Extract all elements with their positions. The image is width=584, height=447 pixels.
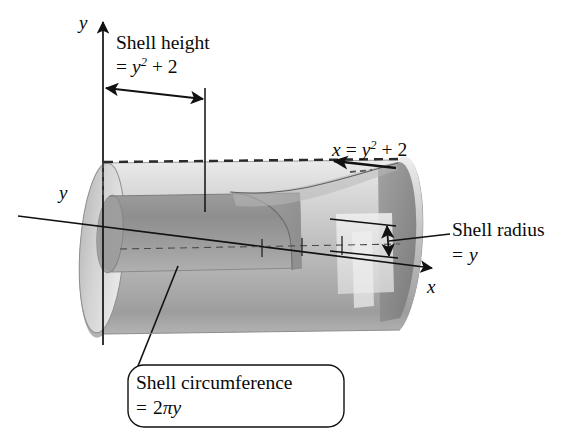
- shell-radius-annotation: Shell radius =y: [452, 218, 545, 266]
- shell-radius-variable: y: [469, 244, 478, 265]
- shell-circumference-annotation: Shell circumference =2πy: [136, 371, 292, 419]
- curve-equation-suffix: + 2: [382, 139, 408, 160]
- curve-equation-equals: =: [346, 139, 357, 160]
- shell-method-figure: y y x Shell height =y2+ 2 x=y2+ 2 Shell …: [0, 0, 584, 447]
- shell-circumference-variable: y: [173, 397, 182, 418]
- shell-circumference-coefficient: 2: [153, 397, 163, 418]
- cylinder-right-highlight-2: [352, 231, 374, 308]
- curve-equation-variable: y: [362, 139, 371, 160]
- shell-height-dimension-arrow: [106, 88, 203, 99]
- curve-equation-lhs: x: [332, 139, 341, 160]
- x-axis-label: x: [427, 276, 435, 298]
- shell-radius-line2: =y: [452, 243, 545, 266]
- shell-radius-equals: =: [452, 244, 463, 265]
- shell-height-line1: Shell height: [116, 31, 210, 54]
- y-axis-label-top: y: [79, 12, 87, 34]
- curve-equation-annotation: x=y2+ 2: [332, 138, 407, 161]
- shell-circumference-equals: =: [136, 397, 147, 418]
- pi-symbol: π: [163, 397, 173, 418]
- shell-height-line2: =y2+ 2: [116, 55, 210, 78]
- shell-height-suffix: + 2: [152, 56, 178, 77]
- shell-circumference-line2: =2πy: [136, 396, 292, 419]
- shell-height-equals: =: [116, 56, 127, 77]
- shell-height-variable: y: [132, 56, 141, 77]
- shell-circumference-line1: Shell circumference: [136, 371, 292, 394]
- shell-height-exponent: 2: [141, 55, 147, 69]
- shell-height-annotation: Shell height =y2+ 2: [116, 31, 210, 78]
- curve-equation-exponent: 2: [370, 138, 376, 152]
- y-axis-label-mid: y: [59, 182, 67, 204]
- shell-radius-line1: Shell radius: [452, 218, 545, 241]
